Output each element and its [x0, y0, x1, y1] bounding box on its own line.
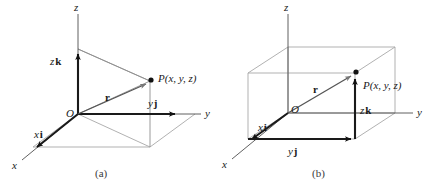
panel-a-origin-label: O: [66, 108, 74, 119]
panel-b-yj-unit: j: [294, 145, 298, 157]
panel-b-point-p-dot: [353, 69, 358, 74]
panel-b-zk-unit: k: [365, 104, 371, 116]
panel-b-point-label: P(x, y, z): [363, 80, 401, 91]
panel-a-point-label: P(x, y, z): [158, 73, 196, 84]
panel-a-xi-label: x i: [34, 129, 43, 140]
panel-a-yj-label: y j: [148, 98, 157, 109]
panel-a-y-axis-label: y: [205, 108, 210, 119]
panel-b-xi-label: x i: [258, 122, 267, 133]
panel-b-z-axis-label: z: [284, 2, 288, 13]
panel-b-yj-label: y j: [288, 146, 297, 157]
panel-a-group: [22, 14, 201, 160]
panel-b-y-axis-label: y: [417, 107, 422, 118]
panel-b-zk-label: z k: [360, 105, 371, 116]
panel-b-x-axis-label: x: [222, 159, 227, 170]
figure-root: z y x O P(x, y, z) r z k y j x i (a) z y…: [0, 0, 428, 191]
panel-a-r-label: r: [105, 92, 110, 103]
panel-a-zk-label: z k: [50, 56, 61, 67]
panel-b-r-label: r: [313, 84, 318, 95]
panel-a-x-axis-label: x: [12, 160, 17, 171]
panel-b-caption: (b): [312, 168, 325, 179]
panel-a-upper-triangle: [78, 49, 150, 114]
panel-a-graphics: [0, 0, 428, 191]
panel-a-zk-unit: k: [55, 55, 61, 67]
panel-a-point-p-dot: [148, 77, 153, 82]
panel-a-z-axis-label: z: [74, 2, 78, 13]
panel-a-xi-unit: i: [40, 128, 43, 140]
panel-b-xi-unit: i: [264, 121, 267, 133]
panel-b-origin-label: O: [291, 104, 299, 115]
panel-a-caption: (a): [95, 168, 107, 179]
panel-a-r-vector: [78, 84, 146, 114]
panel-a-yj-unit: j: [154, 97, 158, 109]
